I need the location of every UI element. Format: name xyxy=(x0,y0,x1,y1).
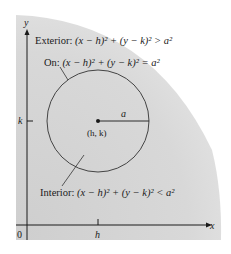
origin-label: 0 xyxy=(17,229,22,240)
h-label: h xyxy=(95,229,100,240)
exterior-label: Exterior: (x − h)² + (y − k)² > a² xyxy=(35,35,173,47)
radius-label: a xyxy=(121,108,126,119)
interior-prefix: Interior: xyxy=(40,187,77,198)
x-axis-label: x xyxy=(209,220,215,231)
interior-equation: (x − h)² + (y − k)² < a² xyxy=(77,187,175,199)
on-label: On: (x − h)² + (y − k)² = a² xyxy=(44,57,160,69)
y-axis-label: y xyxy=(23,17,29,28)
shaded-region xyxy=(16,15,221,240)
circle-regions-diagram: y x 0 k h a (h, k) Exterior: (x − h)² + … xyxy=(0,0,231,254)
exterior-prefix: Exterior: xyxy=(35,35,75,46)
on-prefix: On: xyxy=(44,57,62,68)
interior-label: Interior: (x − h)² + (y − k)² < a² xyxy=(40,187,175,199)
center-label: (h, k) xyxy=(87,128,107,138)
exterior-equation: (x − h)² + (y − k)² > a² xyxy=(75,35,173,47)
k-label: k xyxy=(18,115,23,126)
on-equation: (x − h)² + (y − k)² = a² xyxy=(62,57,160,69)
